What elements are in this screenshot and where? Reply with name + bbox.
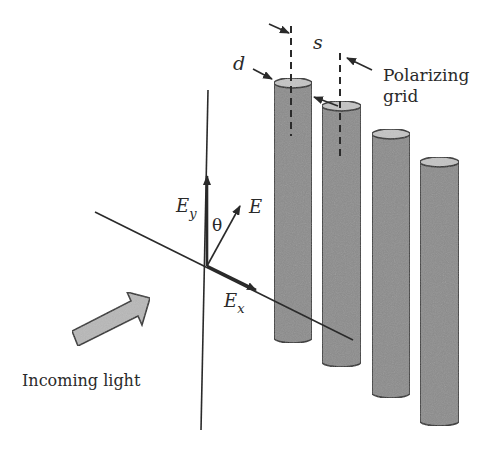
label-e: E — [248, 196, 262, 217]
label-ex: Ex — [223, 290, 245, 316]
s-pointer-arrow — [269, 24, 289, 33]
diagonal-axis-line — [95, 212, 353, 340]
label-d: d — [233, 52, 245, 74]
label-theta: θ — [212, 215, 222, 235]
polarizer-diagram: s d Polarizing grid E θ Ey Ex Incoming l… — [0, 0, 498, 452]
label-polarizing: Polarizing — [383, 65, 469, 85]
label-ey: Ey — [175, 195, 197, 221]
label-s: s — [313, 31, 323, 53]
d-pointer-arrow — [253, 69, 272, 79]
incoming-light-arrow-icon — [72, 292, 150, 346]
label-incoming-light: Incoming light — [22, 371, 141, 390]
ex-vector-arrow — [207, 266, 256, 290]
label-grid: grid — [383, 86, 418, 106]
grid-pointer-arrow — [347, 58, 372, 70]
cylinder-3 — [372, 129, 410, 398]
cylinder-4 — [420, 157, 459, 426]
